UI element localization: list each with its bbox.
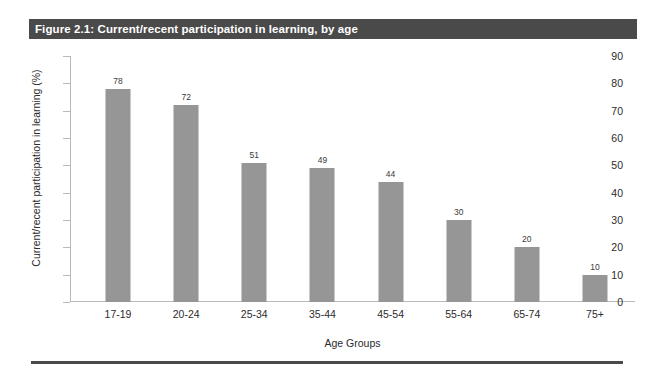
bar-value-label: 72	[181, 92, 190, 102]
bar	[446, 220, 471, 302]
x-axis-category-label: 25-34	[241, 308, 268, 320]
bar	[378, 182, 403, 302]
bar-group: 4445-54	[360, 56, 422, 302]
figure-header-bar: Figure 2.1: Current/recent participation…	[29, 19, 637, 39]
bar	[174, 105, 199, 302]
y-axis-tick	[63, 220, 70, 221]
x-axis-category-label: 35-44	[309, 308, 336, 320]
y-axis-tick	[63, 56, 70, 57]
bar-value-label: 20	[522, 234, 531, 244]
bar-group: 3055-64	[428, 56, 490, 302]
bar-group: 7220-24	[155, 56, 217, 302]
y-axis-tick	[63, 247, 70, 248]
chart-container: Current/recent participation in learning…	[0, 46, 653, 346]
bar	[106, 89, 131, 302]
bar-value-label: 49	[318, 155, 327, 165]
bar-value-label: 44	[386, 169, 395, 179]
y-axis-line	[70, 56, 71, 302]
x-axis-category-label: 17-19	[105, 308, 132, 320]
bottom-divider	[31, 361, 623, 364]
x-axis-category-label: 45-54	[377, 308, 404, 320]
bar	[310, 168, 335, 302]
y-axis-tick	[63, 275, 70, 276]
bar-group: 1075+	[564, 56, 626, 302]
bar-value-label: 51	[250, 150, 259, 160]
bar-value-label: 10	[590, 262, 599, 272]
y-axis-tick	[63, 165, 70, 166]
bar-value-label: 78	[113, 76, 122, 86]
x-axis-category-label: 75+	[586, 308, 604, 320]
bar-value-label: 30	[454, 207, 463, 217]
bar	[583, 275, 608, 302]
plot-area: 0102030405060708090 7817-197220-245125-3…	[70, 56, 635, 302]
y-axis-title: Current/recent participation in learning…	[30, 58, 42, 278]
bar-group: 5125-34	[223, 56, 285, 302]
bar-group: 7817-19	[87, 56, 149, 302]
y-axis-tick	[63, 193, 70, 194]
bar-group: 4935-44	[291, 56, 353, 302]
y-axis-tick	[63, 138, 70, 139]
x-axis-category-label: 20-24	[173, 308, 200, 320]
figure-title: Figure 2.1: Current/recent participation…	[35, 23, 358, 35]
x-axis-category-label: 65-74	[513, 308, 540, 320]
bar	[242, 163, 267, 302]
bar-group: 2065-74	[496, 56, 558, 302]
y-axis-tick	[63, 83, 70, 84]
x-axis-category-label: 55-64	[445, 308, 472, 320]
y-axis-tick	[63, 302, 70, 303]
x-axis-title: Age Groups	[70, 337, 635, 349]
bar	[514, 247, 539, 302]
y-axis-tick	[63, 111, 70, 112]
